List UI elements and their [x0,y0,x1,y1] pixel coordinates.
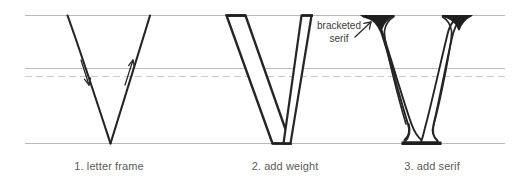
serif-right-stem [422,17,465,143]
bracketed-serif-annotation-line2: serif [300,33,378,46]
letterform-construction-figure: bracketed serif 1. letter frame 2. add w… [0,0,530,182]
serif-right-top-bar [443,16,473,31]
bracketed-serif-annotation-line1: bracketed [300,20,378,33]
caption-add-serif: 3. add serif [352,160,512,172]
serif-foot-bar [402,142,441,145]
frame-right-stroke [111,16,151,144]
bracketed-serif-annotation: bracketed serif [300,20,378,45]
figure-canvas [0,0,530,182]
panel-letter-frame [68,16,151,144]
weighted-left-stem [227,16,291,144]
frame-left-stroke [68,16,111,144]
